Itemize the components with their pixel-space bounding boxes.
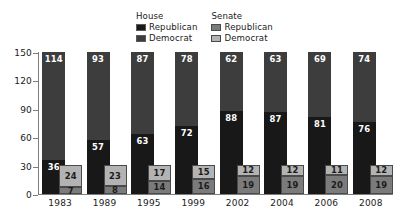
- y-tick-mark-60: [33, 138, 38, 139]
- bar-group-2004: 63871219: [264, 52, 304, 194]
- chart-legend: House Republican Democrat Senate Republi…: [136, 11, 316, 47]
- value-senate-democrat-2006: 11: [326, 165, 347, 175]
- segment-senate-democrat-2006[interactable]: 11: [325, 165, 348, 175]
- x-axis-label-1999: 1999: [171, 198, 215, 208]
- bar-group-2006: 69811120: [308, 52, 348, 194]
- value-senate-democrat-1983: 24: [60, 171, 81, 181]
- segment-senate-republican-2002[interactable]: 19: [237, 176, 260, 194]
- bar-senate-1983[interactable]: 247: [59, 165, 82, 194]
- legend-entry-house-republican: Republican: [136, 22, 197, 33]
- segment-house-democrat-2008[interactable]: 74: [353, 52, 376, 122]
- legend-label-house-democrat: Democrat: [149, 33, 192, 44]
- legend-group-senate: Senate Republican Democrat: [211, 11, 272, 47]
- value-house-democrat-2006: 69: [308, 54, 331, 64]
- value-senate-democrat-2002: 12: [238, 165, 259, 175]
- segment-senate-democrat-2008[interactable]: 12: [370, 165, 393, 176]
- x-axis-label-1983: 1983: [38, 198, 82, 208]
- segment-senate-democrat-1989[interactable]: 23: [104, 165, 127, 187]
- bar-senate-1999[interactable]: 1516: [192, 165, 215, 194]
- value-senate-democrat-1989: 23: [105, 171, 126, 181]
- segment-house-democrat-1983[interactable]: 114: [42, 52, 65, 160]
- legend-swatch-house-democrat: [136, 35, 146, 42]
- value-senate-republican-2004: 19: [282, 180, 303, 190]
- segment-house-democrat-2004[interactable]: 63: [264, 52, 287, 112]
- value-senate-democrat-1999: 15: [193, 167, 214, 177]
- value-house-democrat-1995: 87: [131, 54, 154, 64]
- value-senate-democrat-2004: 12: [282, 165, 303, 175]
- segment-senate-republican-1983[interactable]: 7: [59, 187, 82, 194]
- value-senate-democrat-1995: 17: [149, 168, 170, 178]
- bar-senate-1989[interactable]: 238: [104, 165, 127, 194]
- segment-senate-republican-2006[interactable]: 20: [325, 175, 348, 194]
- segment-senate-democrat-2004[interactable]: 12: [281, 165, 304, 176]
- x-axis-label-1989: 1989: [82, 198, 126, 208]
- segment-senate-republican-2004[interactable]: 19: [281, 176, 304, 194]
- y-tick-label-60: 60: [2, 133, 32, 143]
- legend-swatch-senate-democrat: [211, 35, 221, 42]
- x-axis-label-1995: 1995: [127, 198, 171, 208]
- value-senate-republican-2008: 19: [371, 180, 392, 190]
- value-house-republican-1989: 57: [87, 142, 110, 152]
- legend-swatch-senate-republican: [211, 24, 221, 31]
- x-axis-label-2008: 2008: [349, 198, 393, 208]
- y-tick-label-150: 150: [2, 48, 32, 58]
- segment-senate-democrat-2002[interactable]: 12: [237, 165, 260, 176]
- segment-house-democrat-1989[interactable]: 93: [87, 52, 110, 140]
- bar-senate-2004[interactable]: 1219: [281, 165, 304, 194]
- value-house-republican-1999: 72: [175, 128, 198, 138]
- segment-senate-republican-1999[interactable]: 16: [192, 179, 215, 194]
- plot-area: 0306090120150 11436247935723887631714787…: [38, 52, 393, 195]
- bar-group-1983: 11436247: [42, 52, 82, 194]
- value-senate-republican-1983: 7: [60, 186, 81, 196]
- bar-group-2002: 62881219: [220, 52, 260, 194]
- value-house-democrat-1989: 93: [87, 54, 110, 64]
- value-senate-democrat-2008: 12: [371, 165, 392, 175]
- legend-entry-senate-democrat: Democrat: [211, 33, 272, 44]
- value-house-democrat-2004: 63: [264, 54, 287, 64]
- value-house-democrat-1999: 78: [175, 54, 198, 64]
- value-house-republican-2008: 76: [353, 124, 376, 134]
- value-house-democrat-2008: 74: [353, 54, 376, 64]
- segment-senate-democrat-1995[interactable]: 17: [148, 165, 171, 181]
- y-tick-mark-150: [33, 53, 38, 54]
- bar-senate-2006[interactable]: 1120: [325, 165, 348, 194]
- stacked-bar-chart: House Republican Democrat Senate Republi…: [0, 0, 403, 224]
- value-house-republican-2002: 88: [220, 113, 243, 123]
- value-senate-republican-1989: 8: [105, 185, 126, 195]
- bar-senate-2008[interactable]: 1219: [370, 165, 393, 194]
- segment-house-democrat-1999[interactable]: 78: [175, 52, 198, 126]
- x-axis-labels: 19831989199519992002200420062008: [38, 198, 393, 214]
- bar-group-1989: 9357238: [87, 52, 127, 194]
- bar-group-2008: 74761219: [353, 52, 393, 194]
- legend-group-title-house: House: [136, 11, 197, 22]
- x-axis-label-2004: 2004: [260, 198, 304, 208]
- y-tick-label-120: 120: [2, 76, 32, 86]
- y-tick-mark-120: [33, 81, 38, 82]
- value-senate-republican-1995: 14: [149, 182, 170, 192]
- value-senate-republican-1999: 16: [193, 181, 214, 191]
- value-house-democrat-2002: 62: [220, 54, 243, 64]
- y-axis-line: [38, 52, 39, 195]
- segment-house-democrat-2002[interactable]: 62: [220, 52, 243, 111]
- bar-senate-2002[interactable]: 1219: [237, 165, 260, 194]
- value-senate-republican-2002: 19: [238, 180, 259, 190]
- segment-senate-republican-2008[interactable]: 19: [370, 176, 393, 194]
- legend-group-house: House Republican Democrat: [136, 11, 197, 47]
- bar-senate-1995[interactable]: 1714: [148, 165, 171, 194]
- value-senate-republican-2006: 20: [326, 180, 347, 190]
- value-house-republican-1995: 63: [131, 136, 154, 146]
- segment-senate-republican-1989[interactable]: 8: [104, 186, 127, 194]
- segment-house-democrat-1995[interactable]: 87: [131, 52, 154, 134]
- legend-label-house-republican: Republican: [149, 22, 197, 33]
- bar-group-1999: 78721516: [175, 52, 215, 194]
- segment-senate-democrat-1999[interactable]: 15: [192, 165, 215, 179]
- value-house-republican-2006: 81: [308, 119, 331, 129]
- segment-senate-republican-1995[interactable]: 14: [148, 181, 171, 194]
- legend-group-title-senate: Senate: [211, 11, 272, 22]
- legend-entry-house-democrat: Democrat: [136, 33, 197, 44]
- segment-house-democrat-2006[interactable]: 69: [308, 52, 331, 117]
- x-axis-line: [38, 194, 393, 195]
- segment-senate-democrat-1983[interactable]: 24: [59, 165, 82, 188]
- legend-label-senate-republican: Republican: [224, 22, 272, 33]
- x-axis-label-2006: 2006: [304, 198, 348, 208]
